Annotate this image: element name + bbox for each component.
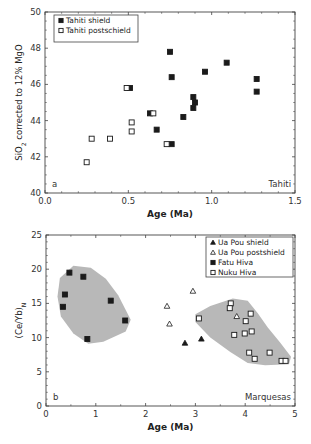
x-tick-label: 1.5 xyxy=(288,196,302,206)
x-tick-label: 0.5 xyxy=(122,196,136,206)
y-axis-title: SiO2 corrected to 12% MgO xyxy=(14,44,27,161)
data-point xyxy=(182,340,188,345)
y-axis-title-part: (Ce/Yb) xyxy=(14,307,24,338)
series-ua-pou-shield xyxy=(182,336,204,345)
data-point xyxy=(62,292,67,297)
data-point xyxy=(203,69,208,74)
y-axis-title-part: SiO xyxy=(14,146,24,161)
data-point xyxy=(254,76,259,81)
data-point xyxy=(129,120,134,125)
data-point xyxy=(247,350,252,355)
series-tahiti-postschield xyxy=(84,86,169,165)
legend-item: Tahiti shield xyxy=(59,16,111,25)
y-tick-label: 0 xyxy=(37,401,42,411)
y-tick-label: 46 xyxy=(30,79,41,89)
data-point xyxy=(154,127,159,132)
legend-label: Ua Pou shield xyxy=(218,238,269,247)
y-tick-label: 25 xyxy=(31,230,42,240)
x-tick-label: 3 xyxy=(193,409,198,419)
panel-label: b xyxy=(53,392,58,402)
data-point xyxy=(89,136,94,141)
data-point xyxy=(193,100,198,105)
x-tick-label: 1.0 xyxy=(205,196,219,206)
y-tick-label: 10 xyxy=(31,333,42,343)
legend-item: Nuku Hiva xyxy=(211,268,256,277)
data-point xyxy=(196,316,201,321)
data-point xyxy=(199,336,205,341)
chart-panel-b: 0123450510152025Age (Ma)(Ce/Yb)NbMarques… xyxy=(0,222,311,444)
y-tick-label: 20 xyxy=(31,264,42,274)
x-tick-label: 2 xyxy=(143,409,148,419)
data-point xyxy=(242,331,247,336)
data-point xyxy=(181,114,186,119)
location-annotation: Tahiti xyxy=(268,179,291,189)
legend-label: Fatu Hiva xyxy=(218,258,253,267)
data-point xyxy=(81,274,86,279)
x-axis-title: Age (Ma) xyxy=(148,422,194,432)
tahiti-scatter-plot: 0.00.51.01.5404244464850Age (Ma)SiO2 cor… xyxy=(0,0,311,222)
data-point xyxy=(84,160,89,165)
data-point xyxy=(191,95,196,100)
data-point xyxy=(85,336,90,341)
data-point xyxy=(124,86,129,91)
data-point xyxy=(252,356,257,361)
y-tick-label: 5 xyxy=(37,367,42,377)
data-point xyxy=(243,319,248,324)
series-tahiti-shield xyxy=(128,49,260,146)
y-axis-title: (Ce/Yb)N xyxy=(14,303,27,339)
y-tick-label: 50 xyxy=(30,7,41,17)
data-point xyxy=(224,60,229,65)
data-point xyxy=(168,49,173,54)
legend: Ua Pou shieldUa Pou postshieldFatu HivaN… xyxy=(206,237,293,277)
data-point xyxy=(108,136,113,141)
data-point xyxy=(151,111,156,116)
data-point xyxy=(60,304,65,309)
fatu-hiva-shaded-field xyxy=(58,266,131,344)
data-point xyxy=(248,311,253,316)
data-point xyxy=(228,301,233,306)
data-point xyxy=(283,358,288,363)
data-point xyxy=(191,105,196,110)
legend-label: Nuku Hiva xyxy=(218,268,256,277)
legend-label: Tahiti shield xyxy=(65,16,111,25)
data-point xyxy=(232,332,237,337)
location-annotation: Marquesas xyxy=(245,392,292,402)
legend-item: Tahiti postschield xyxy=(59,26,131,35)
x-tick-label: 0 xyxy=(43,409,48,419)
legend-item: Ua Pou postshield xyxy=(211,248,285,257)
data-point xyxy=(249,329,254,334)
chart-panel-a: 0.00.51.01.5404244464850Age (Ma)SiO2 cor… xyxy=(0,0,311,222)
y-tick-label: 42 xyxy=(30,152,41,162)
x-tick-label: 5 xyxy=(292,409,297,419)
y-tick-label: 40 xyxy=(30,188,41,198)
data-point xyxy=(67,270,72,275)
data-point xyxy=(129,129,134,134)
data-point xyxy=(254,89,259,94)
legend: Tahiti shieldTahiti postschield xyxy=(54,15,138,42)
x-axis-title: Age (Ma) xyxy=(147,209,193,219)
data-point xyxy=(169,75,174,80)
legend-label: Ua Pou postshield xyxy=(218,248,285,257)
legend-marker-icon xyxy=(59,28,63,32)
data-point xyxy=(108,298,113,303)
legend-marker-icon xyxy=(211,260,215,264)
legend-marker-icon xyxy=(59,18,63,22)
legend-marker-icon xyxy=(211,270,215,274)
y-axis-title-part: N xyxy=(20,303,27,308)
data-point xyxy=(164,303,170,308)
legend-label: Tahiti postschield xyxy=(65,26,131,35)
legend-item: Fatu Hiva xyxy=(211,258,253,267)
panel-label: a xyxy=(52,179,57,189)
data-point xyxy=(227,306,232,311)
data-point xyxy=(169,142,174,147)
data-point xyxy=(267,350,272,355)
x-tick-label: 1 xyxy=(93,409,98,419)
y-tick-label: 48 xyxy=(30,43,41,53)
y-tick-label: 15 xyxy=(31,298,42,308)
data-point xyxy=(190,288,196,293)
y-tick-label: 44 xyxy=(30,116,41,126)
legend-item: Ua Pou shield xyxy=(211,238,269,247)
data-point xyxy=(164,142,169,147)
data-point xyxy=(123,318,128,323)
y-axis-title-part: corrected to 12% MgO xyxy=(14,44,24,142)
